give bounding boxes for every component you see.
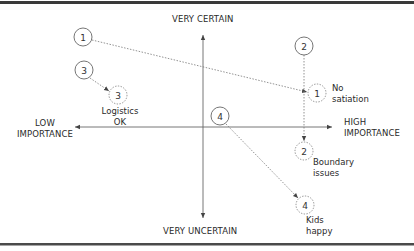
caption-kids-happy: Kids happy bbox=[306, 215, 332, 237]
caption-boundary-issues: Boundary issues bbox=[313, 157, 354, 179]
svg-text:1: 1 bbox=[80, 33, 86, 43]
node-end-1: 1 bbox=[308, 84, 326, 102]
axis-label-left-line1: LOW bbox=[14, 118, 76, 129]
caption-line2: OK bbox=[100, 117, 140, 128]
caption-line2: issues bbox=[313, 168, 354, 179]
node-end-3: 3 bbox=[109, 86, 127, 104]
arrow-3 bbox=[90, 78, 109, 91]
caption-line1: Kids bbox=[306, 215, 332, 226]
axis-label-right-line2: IMPORTANCE bbox=[344, 128, 400, 139]
axis-label-left-line2: IMPORTANCE bbox=[14, 129, 76, 140]
caption-logistics-ok: Logistics OK bbox=[100, 106, 140, 128]
axis-label-bottom: VERY UNCERTAIN bbox=[163, 226, 237, 237]
axis-label-right-line1: HIGH bbox=[344, 117, 400, 128]
bottom-border bbox=[0, 243, 414, 246]
node-start-1: 1 bbox=[74, 28, 92, 46]
arrow-4 bbox=[226, 124, 298, 198]
svg-text:4: 4 bbox=[302, 201, 308, 211]
top-border bbox=[0, 1, 414, 4]
svg-text:2: 2 bbox=[301, 42, 307, 52]
node-start-4: 4 bbox=[211, 107, 229, 125]
node-start-2: 2 bbox=[295, 37, 313, 55]
caption-line2: happy bbox=[306, 226, 332, 237]
svg-text:1: 1 bbox=[314, 89, 320, 99]
axis-label-right: HIGH IMPORTANCE bbox=[344, 117, 400, 139]
caption-line2: satiation bbox=[332, 94, 369, 105]
arrow-1 bbox=[92, 40, 307, 92]
svg-text:3: 3 bbox=[115, 91, 121, 101]
caption-line1: Logistics bbox=[100, 106, 140, 117]
caption-line1: No bbox=[332, 83, 369, 94]
caption-line1: Boundary bbox=[313, 157, 354, 168]
svg-text:2: 2 bbox=[301, 147, 307, 157]
caption-no-satiation: No satiation bbox=[332, 83, 369, 105]
svg-text:4: 4 bbox=[217, 112, 223, 122]
node-start-3: 3 bbox=[75, 61, 93, 79]
node-end-2: 2 bbox=[295, 142, 313, 160]
node-end-4: 4 bbox=[296, 196, 314, 214]
axis-label-top: VERY CERTAIN bbox=[172, 14, 233, 25]
svg-text:3: 3 bbox=[81, 66, 87, 76]
axis-label-left: LOW IMPORTANCE bbox=[14, 118, 76, 140]
